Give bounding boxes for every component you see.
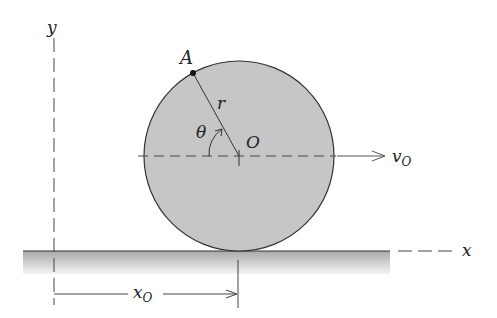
point-A-label: A [178, 47, 193, 68]
displacement-label: xO [133, 282, 153, 305]
angle-label: θ [196, 122, 206, 142]
ground [23, 251, 390, 274]
rolling-disk-diagram: x y vO A r θ O xO [0, 0, 497, 318]
radius-label: r [217, 93, 226, 113]
velocity-label: vO [392, 146, 412, 169]
velocity-arrow [337, 151, 385, 161]
x-axis-label: x [462, 240, 472, 260]
point-A [190, 70, 196, 76]
y-axis-label: y [46, 17, 57, 37]
center-label: O [246, 132, 260, 152]
